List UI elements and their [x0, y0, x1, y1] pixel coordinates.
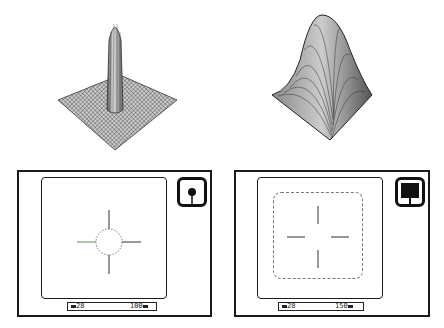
status-right: 100 — [130, 303, 148, 309]
status-left: 28 — [71, 303, 84, 309]
area-icon — [395, 177, 425, 207]
status-left: 28 — [282, 303, 295, 309]
area-crosshair — [281, 200, 356, 275]
spot-icon — [177, 177, 207, 207]
area-metering-panel: 28 150 — [234, 170, 430, 317]
narrow-peak-surface-plot — [55, 10, 185, 160]
exposure-status-bar: 28 150 — [278, 302, 364, 311]
exposure-status-bar: 28 100 — [67, 302, 157, 311]
spot-crosshair — [69, 202, 149, 282]
status-right: 150 — [335, 303, 353, 309]
wide-peak-surface-plot — [270, 10, 400, 160]
spot-metering-panel: 28 100 — [17, 170, 212, 317]
